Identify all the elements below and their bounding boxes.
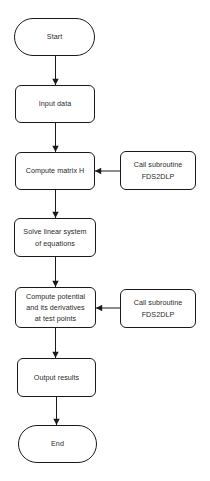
flow-node-sub1[interactable]: Call subroutine FDS2DLP xyxy=(120,151,196,190)
flowchart-canvas: StartInput dataCompute matrix HCall subr… xyxy=(0,0,210,481)
flow-arrow xyxy=(52,257,58,287)
flow-node-input[interactable]: Input data xyxy=(15,85,95,123)
flow-arrow xyxy=(52,123,58,152)
flow-node-label: Start xyxy=(47,31,62,42)
flow-node-label: Output results xyxy=(34,372,79,383)
flow-node-label: Compute potential and its derivatives at… xyxy=(26,291,85,324)
flow-arrow xyxy=(53,397,59,425)
flow-node-label: Input data xyxy=(39,98,71,109)
flow-node-start[interactable]: Start xyxy=(14,18,95,56)
flow-arrow xyxy=(96,305,120,311)
flow-arrow xyxy=(95,168,120,174)
flow-arrow xyxy=(52,328,58,358)
flow-arrow xyxy=(52,190,58,218)
flow-node-label: Compute matrix H xyxy=(26,165,85,176)
flow-node-label: End xyxy=(51,438,64,449)
flow-node-solve[interactable]: Solve linear system of equations xyxy=(14,218,96,257)
flow-node-label: Call subroutine FDS2DLP xyxy=(134,159,183,181)
flow-node-output[interactable]: Output results xyxy=(17,358,96,397)
flow-node-end[interactable]: End xyxy=(18,425,97,463)
flow-node-label: Call subroutine FDS2DLP xyxy=(134,297,183,319)
flow-node-label: Solve linear system of equations xyxy=(23,226,86,248)
flow-arrow xyxy=(52,56,58,85)
flow-node-matrix[interactable]: Compute matrix H xyxy=(15,152,95,190)
flow-node-potential[interactable]: Compute potential and its derivatives at… xyxy=(15,287,96,328)
flow-node-sub2[interactable]: Call subroutine FDS2DLP xyxy=(120,289,196,328)
